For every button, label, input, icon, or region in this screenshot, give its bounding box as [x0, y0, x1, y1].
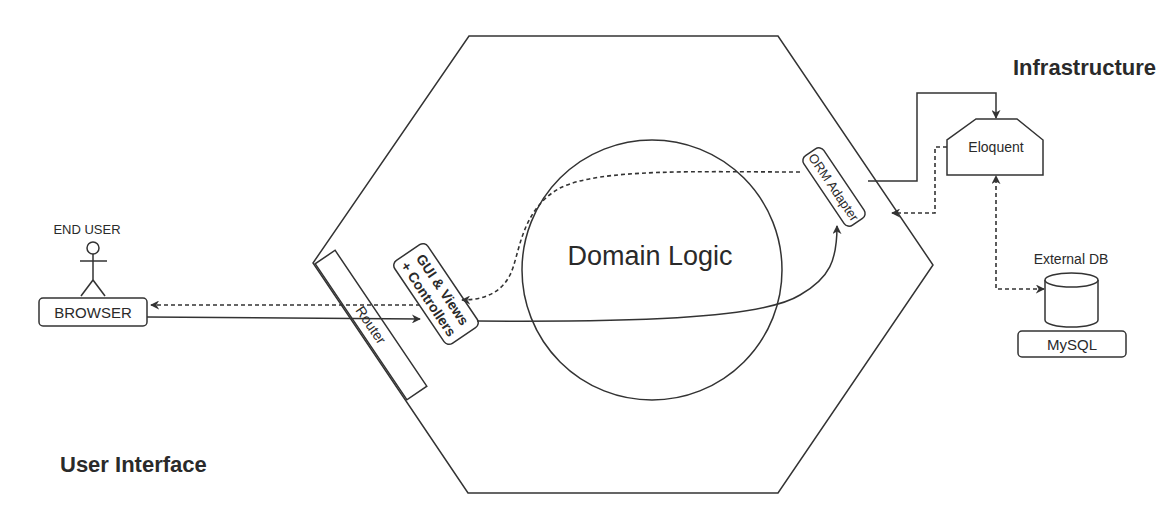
orm-adapter-node: ORM Adapter	[801, 145, 868, 228]
gui-views-controllers-node: GUI & Views + Controllers	[391, 241, 480, 346]
eloquent-node: Eloquent	[947, 119, 1043, 175]
svg-text:ORM Adapter: ORM Adapter	[805, 150, 862, 224]
svg-text:Router: Router	[353, 303, 390, 347]
svg-text:Domain Logic: Domain Logic	[567, 241, 732, 271]
svg-text:Eloquent: Eloquent	[968, 139, 1023, 155]
svg-text:External DB: External DB	[1034, 251, 1109, 267]
eloquent-db-dashed-arrow	[996, 176, 1044, 289]
database-cylinder-icon	[1045, 273, 1098, 327]
svg-text:Infrastructure: Infrastructure	[1013, 55, 1156, 80]
svg-text:User Interface: User Interface	[60, 452, 207, 477]
svg-text:BROWSER: BROWSER	[54, 304, 132, 321]
end-user-actor: END USER	[53, 222, 120, 296]
eloquent-to-orm-dashed-arrow	[892, 147, 947, 213]
stick-figure-icon	[80, 242, 107, 296]
user-interface-heading: User Interface	[60, 452, 207, 477]
orm-to-gui-dashed-arrow	[462, 172, 800, 300]
request-solid-arrow	[147, 317, 420, 319]
svg-text:MySQL: MySQL	[1047, 336, 1097, 353]
external-db-label: External DB	[1034, 251, 1109, 267]
hexagonal-architecture-diagram: Domain Logic Infrastructure User Interfa…	[0, 0, 1167, 527]
svg-text:END USER: END USER	[53, 222, 120, 237]
domain-logic-label: Domain Logic	[567, 241, 732, 271]
infrastructure-heading: Infrastructure	[1013, 55, 1156, 80]
browser-node: BROWSER	[39, 298, 147, 326]
mysql-node: MySQL	[1018, 331, 1126, 357]
